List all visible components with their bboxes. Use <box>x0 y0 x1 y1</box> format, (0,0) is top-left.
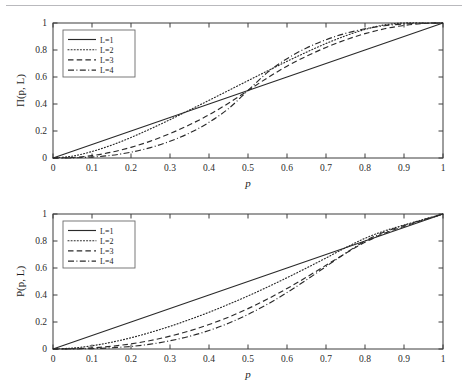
x-tick-label: 0.1 <box>86 354 98 364</box>
x-tick-label: 0.6 <box>281 354 293 364</box>
x-tick-label: 0.5 <box>242 354 254 364</box>
chart-panel-p: 00.10.20.30.40.50.60.70.80.9100.20.40.60… <box>0 191 468 382</box>
x-tick-label: 0.8 <box>359 354 371 364</box>
x-tick-label: 0 <box>51 354 56 364</box>
x-tick-label: 0.3 <box>164 354 176 364</box>
x-axis-title: p <box>244 368 251 380</box>
x-axis-title: p <box>244 177 251 189</box>
y-tick-label: 1 <box>42 18 47 28</box>
y-tick-label: 0.4 <box>35 290 47 300</box>
x-tick-label: 0.7 <box>320 354 332 364</box>
y-tick-label: 0.6 <box>35 72 47 82</box>
y-axis-title: P(p, L) <box>14 266 27 298</box>
x-tick-label: 0.6 <box>281 163 293 173</box>
x-tick-label: 0 <box>51 163 56 173</box>
y-tick-label: 0 <box>42 153 47 163</box>
y-tick-label: 0.2 <box>35 126 47 136</box>
x-tick-label: 0.9 <box>398 163 410 173</box>
x-tick-label: 0.2 <box>125 163 137 173</box>
y-tick-label: 0.8 <box>35 236 47 246</box>
x-tick-label: 0.7 <box>320 163 332 173</box>
x-tick-label: 0.8 <box>359 163 371 173</box>
y-axis-title: Π(p, L) <box>14 74 27 107</box>
y-tick-label: 1 <box>42 209 47 219</box>
x-tick-label: 0.4 <box>203 163 215 173</box>
x-tick-label: 1 <box>441 163 446 173</box>
y-tick-label: 0.6 <box>35 263 47 273</box>
legend-label-l4: L=4 <box>100 66 113 75</box>
plot-svg: 00.10.20.30.40.50.60.70.80.9100.20.40.60… <box>0 0 468 191</box>
x-tick-label: 0.9 <box>398 354 410 364</box>
y-tick-label: 0.4 <box>35 99 47 109</box>
legend-label-l1: L=1 <box>100 36 113 45</box>
legend-label-l2: L=2 <box>100 237 113 246</box>
legend-label-l3: L=3 <box>100 247 113 256</box>
x-tick-label: 0.4 <box>203 354 215 364</box>
legend-label-l1: L=1 <box>100 227 113 236</box>
legend-label-l2: L=2 <box>100 46 113 55</box>
figure-container: 00.10.20.30.40.50.60.70.80.9100.20.40.60… <box>0 0 468 382</box>
x-tick-label: 0.5 <box>242 163 254 173</box>
y-tick-label: 0.8 <box>35 45 47 55</box>
x-tick-label: 1 <box>441 354 446 364</box>
x-tick-label: 0.3 <box>164 163 176 173</box>
x-tick-label: 0.1 <box>86 163 98 173</box>
plot-svg: 00.10.20.30.40.50.60.70.80.9100.20.40.60… <box>0 191 468 382</box>
legend-label-l4: L=4 <box>100 257 113 266</box>
chart-panel-pi: 00.10.20.30.40.50.60.70.80.9100.20.40.60… <box>0 0 468 191</box>
legend-label-l3: L=3 <box>100 56 113 65</box>
y-tick-label: 0.2 <box>35 317 47 327</box>
x-tick-label: 0.2 <box>125 354 137 364</box>
y-tick-label: 0 <box>42 344 47 354</box>
